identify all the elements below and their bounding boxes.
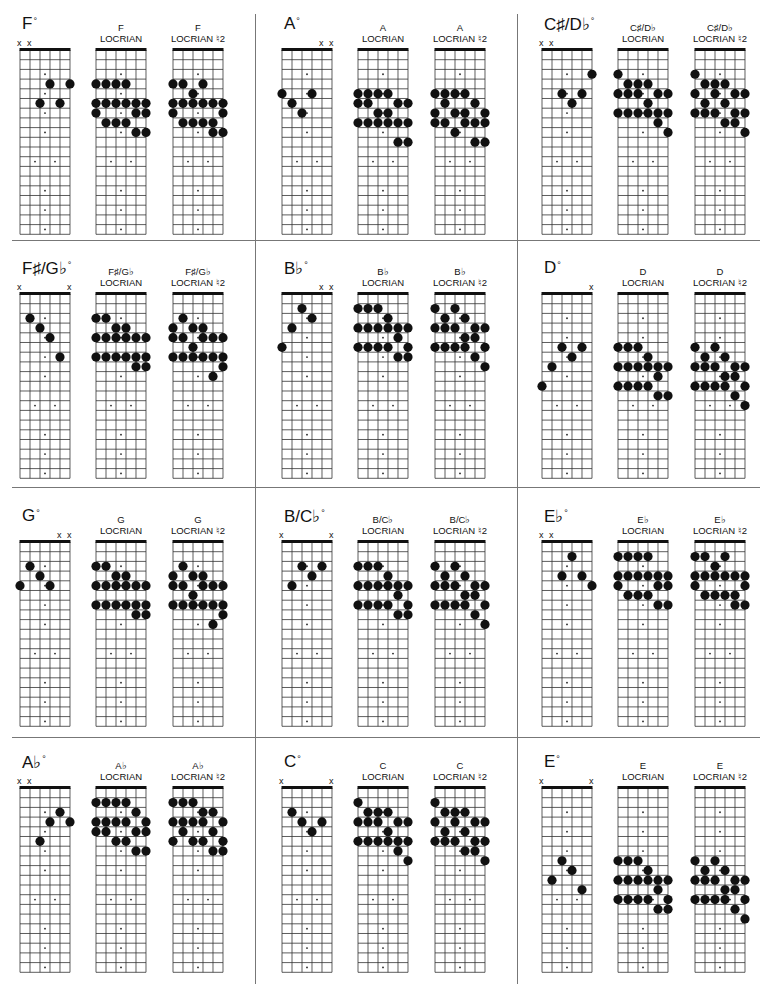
locrian-diagram xyxy=(614,48,672,236)
locrian-natural2-diagram xyxy=(691,540,749,728)
chord-cell-cd: C♯/D♭°xxC♯/D♭LOCRIANC♯/D♭LOCRIAN ♮2 xyxy=(530,14,771,259)
locrian-natural2-diagram xyxy=(169,292,227,480)
chord-title: E° xyxy=(544,752,560,772)
scale-root-label: C♯/D♭ xyxy=(680,22,760,33)
chord-cell-c: C°xxCLOCRIANCLOCRIAN ♮2 xyxy=(270,752,525,994)
locrian-natural2-diagram-title: A♭LOCRIAN ♮2 xyxy=(158,760,238,782)
scale-root-label: B/C♭ xyxy=(420,514,500,525)
scale-root-label: C xyxy=(420,760,500,771)
chord-cell-e: E♭°xxE♭LOCRIANE♭LOCRIAN ♮2 xyxy=(530,506,771,751)
scale-root-label: G xyxy=(158,514,238,525)
scale-name-label: LOCRIAN xyxy=(343,771,423,782)
scale-root-label: D xyxy=(680,266,760,277)
locrian-diagram xyxy=(92,786,150,974)
muted-string-icon: x xyxy=(279,530,284,540)
scale-name-label: LOCRIAN xyxy=(81,771,161,782)
chord-cell-e: E°xxELOCRIANELOCRIAN ♮2 xyxy=(530,752,771,994)
locrian-diagram-title: E♭LOCRIAN xyxy=(603,514,683,536)
locrian-natural2-diagram xyxy=(169,540,227,728)
chord-title: C♯/D♭° xyxy=(544,14,594,35)
muted-string-icon: x xyxy=(279,776,284,786)
chord-cell-d: D°xDLOCRIANDLOCRIAN ♮2 xyxy=(530,258,771,503)
locrian-diagram-title: FLOCRIAN xyxy=(81,22,161,44)
diminished-symbol: ° xyxy=(297,754,301,764)
locrian-diagram xyxy=(92,540,150,728)
diminished-symbol: ° xyxy=(296,16,300,26)
scale-name-label: LOCRIAN ♮2 xyxy=(158,771,238,782)
locrian-diagram-title: GLOCRIAN xyxy=(81,514,161,536)
diminished-symbol: ° xyxy=(556,754,560,764)
scale-name-label: LOCRIAN ♮2 xyxy=(420,525,500,536)
scale-root-label: C♯/D♭ xyxy=(603,22,683,33)
scale-root-label: E xyxy=(680,760,760,771)
chord-title: G° xyxy=(22,506,40,526)
muted-string-icon: x xyxy=(589,776,594,786)
chord-diagram xyxy=(16,540,74,728)
muted-string-icon: x xyxy=(319,282,324,292)
locrian-natural2-diagram xyxy=(691,292,749,480)
locrian-natural2-diagram xyxy=(431,540,489,728)
chord-cell-a: A°xxALOCRIANALOCRIAN ♮2 xyxy=(270,14,525,259)
chord-cell-a: A♭°xxA♭LOCRIANA♭LOCRIAN ♮2 xyxy=(8,752,263,994)
locrian-natural2-diagram-title: DLOCRIAN ♮2 xyxy=(680,266,760,288)
locrian-natural2-diagram-title: E♭LOCRIAN ♮2 xyxy=(680,514,760,536)
locrian-diagram-title: ELOCRIAN xyxy=(603,760,683,782)
diminished-symbol: ° xyxy=(304,260,308,270)
chord-diagram xyxy=(538,48,596,236)
locrian-diagram-title: ALOCRIAN xyxy=(343,22,423,44)
muted-string-icon: x xyxy=(67,282,72,292)
muted-string-icon: x xyxy=(67,530,72,540)
scale-name-label: LOCRIAN ♮2 xyxy=(158,33,238,44)
scale-root-label: A♭ xyxy=(81,760,161,771)
locrian-diagram xyxy=(92,48,150,236)
locrian-diagram-title: A♭LOCRIAN xyxy=(81,760,161,782)
chord-cell-b: B♭°xxB♭LOCRIANB♭LOCRIAN ♮2 xyxy=(270,258,525,503)
locrian-diagram xyxy=(92,292,150,480)
locrian-natural2-diagram-title: ELOCRIAN ♮2 xyxy=(680,760,760,782)
scale-name-label: LOCRIAN xyxy=(343,525,423,536)
scale-name-label: LOCRIAN xyxy=(81,33,161,44)
diminished-symbol: ° xyxy=(564,508,568,518)
locrian-natural2-diagram-title: B♭LOCRIAN ♮2 xyxy=(420,266,500,288)
scale-name-label: LOCRIAN ♮2 xyxy=(680,771,760,782)
diminished-symbol: ° xyxy=(321,508,325,518)
scale-root-label: B♭ xyxy=(420,266,500,277)
muted-string-icon: x xyxy=(329,38,334,48)
diminished-symbol: ° xyxy=(68,260,72,270)
locrian-diagram-title: C♯/D♭LOCRIAN xyxy=(603,22,683,44)
scale-name-label: LOCRIAN ♮2 xyxy=(158,525,238,536)
locrian-natural2-diagram xyxy=(431,786,489,974)
chord-root-label: D xyxy=(544,258,556,277)
chord-diagram xyxy=(538,292,596,480)
scale-root-label: A xyxy=(343,22,423,33)
chord-title: F♯/G♭° xyxy=(22,258,71,279)
diminished-symbol: ° xyxy=(42,754,46,764)
scale-root-label: F♯/G♭ xyxy=(158,266,238,277)
chord-title: E♭° xyxy=(544,506,568,527)
locrian-natural2-diagram xyxy=(431,292,489,480)
muted-string-icon: x xyxy=(17,282,22,292)
muted-string-icon: x xyxy=(589,282,594,292)
locrian-diagram xyxy=(614,292,672,480)
scale-name-label: LOCRIAN ♮2 xyxy=(680,525,760,536)
scale-root-label: A♭ xyxy=(158,760,238,771)
scale-root-label: A xyxy=(420,22,500,33)
chord-root-label: E♭ xyxy=(544,507,563,526)
chord-cell-bc: B/C♭°xxB/C♭LOCRIANB/C♭LOCRIAN ♮2 xyxy=(270,506,525,751)
locrian-diagram xyxy=(614,786,672,974)
locrian-natural2-diagram-title: F♯/G♭LOCRIAN ♮2 xyxy=(158,266,238,288)
locrian-diagram-title: F♯/G♭LOCRIAN xyxy=(81,266,161,288)
chord-diagram xyxy=(278,540,336,728)
chord-title: B/C♭° xyxy=(284,506,325,527)
locrian-diagram xyxy=(614,540,672,728)
chord-title: B♭° xyxy=(284,258,308,279)
chord-title: D° xyxy=(544,258,561,278)
locrian-natural2-diagram-title: B/C♭LOCRIAN ♮2 xyxy=(420,514,500,536)
chord-title: A♭° xyxy=(22,752,46,773)
scale-root-label: C xyxy=(343,760,423,771)
chord-diagram xyxy=(278,292,336,480)
locrian-natural2-diagram-title: CLOCRIAN ♮2 xyxy=(420,760,500,782)
locrian-natural2-diagram xyxy=(691,48,749,236)
locrian-natural2-diagram xyxy=(431,48,489,236)
scale-name-label: LOCRIAN ♮2 xyxy=(420,33,500,44)
